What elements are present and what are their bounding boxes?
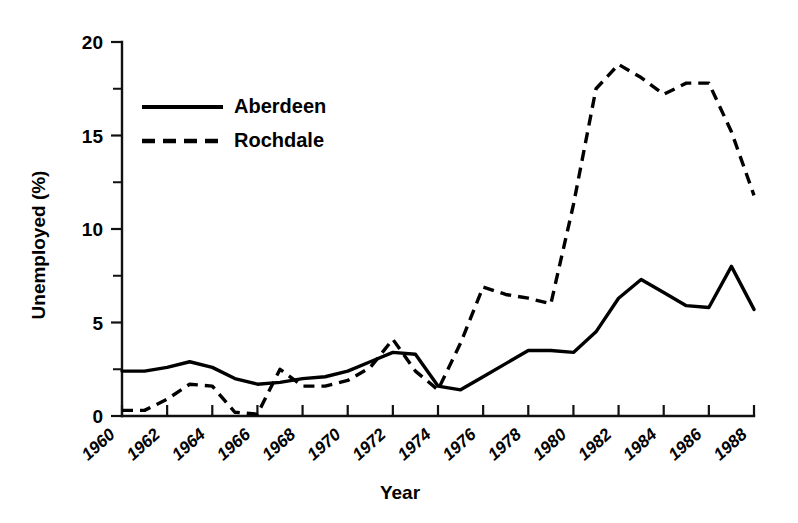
x-axis-title: Year	[380, 482, 421, 503]
legend-entry-rochdale: Rochdale	[142, 129, 324, 151]
x-tick-label-1978: 1978	[484, 424, 525, 464]
y-tick-label-0: 0	[92, 406, 103, 427]
y-tick-label-5: 5	[92, 313, 103, 334]
x-tick-label-1964: 1964	[168, 424, 209, 464]
x-tick-label-1982: 1982	[574, 424, 615, 464]
series-line-aberdeen	[122, 266, 754, 389]
y-axis-title: Unemployed (%)	[28, 171, 49, 320]
x-tick-label-1980: 1980	[529, 424, 570, 464]
x-tick-label-1984: 1984	[620, 424, 661, 464]
legend-label-aberdeen: Aberdeen	[234, 95, 326, 117]
x-tick-label-1976: 1976	[439, 424, 480, 464]
data-series-layer	[122, 64, 754, 414]
x-tick-label-1970: 1970	[304, 424, 345, 464]
axes	[122, 42, 754, 416]
y-axis-ticks	[111, 42, 122, 416]
legend-entry-aberdeen: Aberdeen	[142, 95, 326, 117]
x-tick-label-1962: 1962	[123, 424, 164, 464]
y-tick-label-20: 20	[82, 32, 103, 53]
x-tick-label-1986: 1986	[665, 424, 706, 464]
x-tick-label-1968: 1968	[258, 424, 299, 464]
series-line-rochdale	[122, 64, 754, 414]
x-tick-label-1972: 1972	[349, 424, 390, 464]
legend-label-rochdale: Rochdale	[234, 129, 324, 151]
chart-container: 05101520 1960196219641966196819701972197…	[0, 0, 798, 523]
x-axis-tick-labels: 1960196219641966196819701972197419761978…	[78, 424, 751, 464]
x-tick-label-1960: 1960	[78, 424, 119, 464]
chart-legend: Aberdeen Rochdale	[142, 95, 326, 151]
x-axis-ticks	[122, 405, 754, 416]
y-tick-label-10: 10	[82, 219, 103, 240]
unemployment-line-chart: 05101520 1960196219641966196819701972197…	[0, 0, 798, 523]
x-tick-label-1988: 1988	[710, 424, 751, 464]
y-axis-tick-labels: 05101520	[82, 32, 104, 427]
y-tick-label-15: 15	[82, 126, 104, 147]
x-tick-label-1966: 1966	[213, 424, 254, 464]
x-tick-label-1974: 1974	[394, 424, 435, 464]
